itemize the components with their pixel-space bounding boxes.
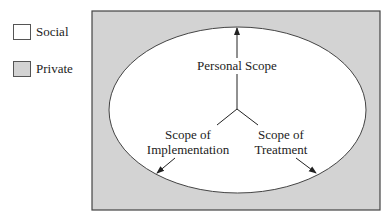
implementation-label-line1: Scope of — [165, 127, 212, 142]
treatment-label-line2: Treatment — [255, 142, 308, 157]
treatment-label-line1: Scope of — [258, 127, 305, 142]
scope-diagram: Personal Scope Scope of Implementation S… — [0, 0, 392, 222]
implementation-label-line2: Implementation — [147, 142, 230, 157]
personal-scope-label: Personal Scope — [197, 58, 277, 73]
